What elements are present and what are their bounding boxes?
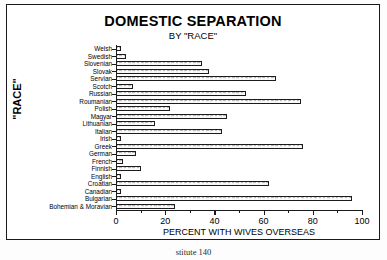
bar	[116, 129, 222, 134]
category-label: Canadian	[85, 188, 112, 196]
y-tick	[112, 71, 116, 72]
y-tick	[112, 86, 116, 87]
bar	[116, 166, 141, 171]
y-tick	[112, 49, 116, 50]
bar-row: Russian	[116, 90, 362, 98]
bar-row: English	[116, 173, 362, 181]
x-axis-label: PERCENT WITH WIVES OVERSEAS	[116, 227, 362, 237]
bar-row: Swedish	[116, 53, 362, 61]
bar-row: Scotch	[116, 83, 362, 91]
bar-row: French	[116, 158, 362, 166]
category-label: Finnish	[91, 165, 112, 173]
bar-row: Magyar	[116, 113, 362, 121]
x-tick-label: 40	[209, 216, 219, 226]
bar	[116, 76, 276, 81]
category-label: Welsh	[94, 45, 112, 53]
scanned-page: DOMESTIC SEPARATION BY "RACE" "RACE" Wel…	[0, 0, 387, 260]
bar	[116, 106, 170, 111]
bar-row: Greek	[116, 143, 362, 151]
bar-row: Finnish	[116, 165, 362, 173]
y-tick	[112, 199, 116, 200]
bar	[116, 114, 227, 119]
x-tick	[116, 210, 117, 215]
bar-row: Italian	[116, 128, 362, 136]
y-tick	[112, 161, 116, 162]
x-tick-minor	[239, 210, 240, 213]
chart-title: DOMESTIC SEPARATION	[7, 13, 379, 29]
bar-row: Polish	[116, 105, 362, 113]
y-tick	[112, 124, 116, 125]
x-tick-minor	[190, 210, 191, 213]
category-label: Irish	[100, 135, 112, 143]
y-tick	[112, 206, 116, 207]
category-label: Swedish	[88, 53, 112, 61]
plot-area: WelshSwedishSlovenianSlovakServianScotch…	[116, 45, 362, 210]
y-axis-label: "RACE"	[11, 69, 23, 129]
bar	[116, 181, 269, 186]
y-axis-line	[116, 45, 117, 211]
bar	[116, 99, 301, 104]
x-tick-label: 80	[308, 216, 318, 226]
y-tick	[112, 146, 116, 147]
bar	[116, 61, 202, 66]
y-tick	[112, 101, 116, 102]
x-tick	[313, 210, 314, 215]
category-label: Polish	[95, 105, 112, 113]
bar-row: German	[116, 150, 362, 158]
y-tick	[112, 56, 116, 57]
y-tick	[112, 64, 116, 65]
y-tick	[112, 131, 116, 132]
bar-row: Lithuanian	[116, 120, 362, 128]
x-tick-label: 0	[113, 216, 118, 226]
x-tick	[264, 210, 265, 215]
category-label: Italian	[95, 128, 112, 136]
x-tick	[362, 210, 363, 215]
y-tick	[112, 109, 116, 110]
y-tick	[112, 184, 116, 185]
category-label: French	[92, 158, 112, 166]
x-tick	[214, 210, 215, 215]
y-tick	[112, 139, 116, 140]
category-label: Greek	[95, 143, 112, 151]
page-footer-text: stitute 140	[0, 247, 387, 257]
x-tick-minor	[288, 210, 289, 213]
bar	[116, 204, 175, 209]
y-tick	[112, 116, 116, 117]
bar	[116, 144, 303, 149]
category-label: English	[91, 173, 112, 181]
category-label: Bulgarian	[85, 195, 112, 203]
category-label: Slovak	[93, 68, 112, 76]
category-label: Russian	[89, 90, 112, 98]
x-tick-label: 20	[160, 216, 170, 226]
category-label: Slovenian	[84, 60, 112, 68]
category-label: Bohemian & Moravian	[49, 203, 112, 211]
bar	[116, 54, 126, 59]
bar-row: Slovenian	[116, 60, 362, 68]
category-label: Croatian	[88, 180, 112, 188]
bar-row: Servian	[116, 75, 362, 83]
category-label: Roumanian	[79, 98, 112, 106]
y-tick	[112, 191, 116, 192]
bar-row: Bulgarian	[116, 195, 362, 203]
x-tick	[165, 210, 166, 215]
y-tick	[112, 79, 116, 80]
y-tick	[112, 169, 116, 170]
category-label: German	[89, 150, 112, 158]
category-label: Servian	[90, 75, 112, 83]
y-tick	[112, 154, 116, 155]
y-tick	[112, 94, 116, 95]
chart-subtitle: BY "RACE"	[7, 30, 379, 41]
bar-row: Canadian	[116, 188, 362, 196]
bar	[116, 151, 136, 156]
x-tick-minor	[337, 210, 338, 213]
bar-row: Slovak	[116, 68, 362, 76]
x-tick-label: 100	[354, 216, 369, 226]
bar-row: Welsh	[116, 45, 362, 53]
x-tick-minor	[141, 210, 142, 213]
bar-row: Croatian	[116, 180, 362, 188]
x-tick-label: 60	[259, 216, 269, 226]
category-label: Lithuanian	[83, 120, 113, 128]
bar-row: Roumanian	[116, 98, 362, 106]
bar	[116, 84, 133, 89]
chart-figure-frame: DOMESTIC SEPARATION BY "RACE" "RACE" Wel…	[6, 4, 380, 240]
